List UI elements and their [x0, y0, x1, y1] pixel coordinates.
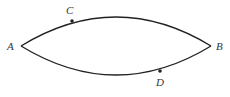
label-d: D	[155, 76, 164, 88]
point-c-dot	[70, 19, 74, 23]
upper-arc-acb	[21, 17, 211, 46]
lens-diagram: A B C D	[0, 0, 230, 97]
lower-arc-adb	[21, 46, 211, 75]
label-c: C	[66, 4, 74, 16]
label-a: A	[6, 40, 14, 52]
point-d-dot	[158, 69, 162, 73]
label-b: B	[216, 40, 223, 52]
